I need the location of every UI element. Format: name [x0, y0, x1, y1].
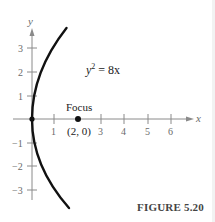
y-axis-label: y: [27, 15, 33, 27]
y-tick-label: −3: [12, 185, 23, 196]
page-edge: [212, 0, 215, 222]
x-tick-label: 5: [145, 126, 150, 137]
equation-label: y2 = 8x: [85, 62, 120, 77]
y-tick-label: 2: [18, 67, 23, 78]
x-tick-label: 3: [98, 126, 103, 137]
x-tick-label: 1: [51, 126, 56, 137]
y-tick-label: 1: [18, 91, 23, 102]
y-tick-label: −2: [12, 161, 23, 172]
x-tick-label: 4: [121, 126, 126, 137]
equation-rest: = 8x: [95, 63, 120, 77]
y-tick-label: 3: [18, 43, 23, 54]
x-axis-label: x: [195, 112, 201, 124]
x-tick-label: 6: [168, 126, 173, 137]
figure-caption: FIGURE 5.20: [137, 201, 204, 213]
parabola-curve: [32, 28, 69, 208]
focus-point: [75, 116, 81, 122]
y-tick-label: −1: [12, 138, 23, 149]
focus-label: Focus: [66, 101, 92, 113]
parabola-chart: y x 3 2 1 −1 −2 −3 1 3 4 5 6 Focus (2, 0…: [0, 0, 215, 222]
focus-coordinates: (2, 0): [67, 125, 91, 138]
x-axis-arrow-icon: [186, 117, 194, 122]
vertex-point: [29, 116, 34, 121]
y-axis-arrow-icon: [30, 28, 35, 36]
